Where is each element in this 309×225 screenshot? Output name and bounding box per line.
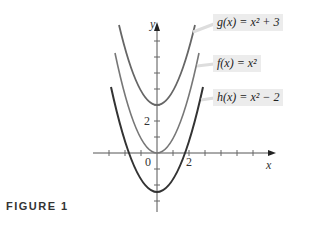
x-tick-label-2: 2 (186, 155, 192, 169)
y-tick-label-2: 2 (144, 114, 150, 128)
figure-plot: y x 0 2 2 (0, 0, 309, 225)
label-h: h(x) = x² − 2 (213, 89, 283, 106)
leader-f (197, 64, 214, 66)
x-axis-arrow-icon (268, 150, 276, 156)
x-axis-label: x (265, 158, 272, 172)
label-f: f(x) = x² (213, 55, 261, 72)
label-g: g(x) = x² + 3 (213, 14, 283, 31)
x-tick-label-0: 0 (145, 155, 151, 169)
y-axis-label: y (149, 17, 156, 31)
figure-caption: FIGURE 1 (6, 200, 69, 212)
leader-g (193, 24, 214, 32)
